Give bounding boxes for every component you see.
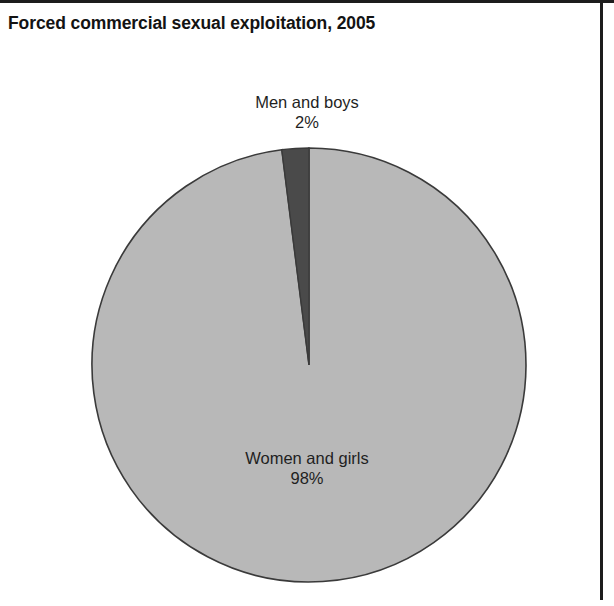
pie-label-men-and-boys-name: Men and boys	[157, 92, 457, 112]
pie-label-men-and-boys: Men and boys 2%	[157, 92, 457, 132]
pie-chart-figure: Forced commercial sexual exploitation, 2…	[0, 0, 614, 606]
pie-svg	[0, 0, 614, 606]
pie-label-women-and-girls-value: 98%	[157, 468, 457, 488]
pie-plot-area	[0, 0, 614, 606]
pie-label-women-and-girls: Women and girls 98%	[157, 448, 457, 488]
pie-label-women-and-girls-name: Women and girls	[157, 448, 457, 468]
pie-label-men-and-boys-value: 2%	[157, 112, 457, 132]
pie-slices	[92, 148, 526, 582]
